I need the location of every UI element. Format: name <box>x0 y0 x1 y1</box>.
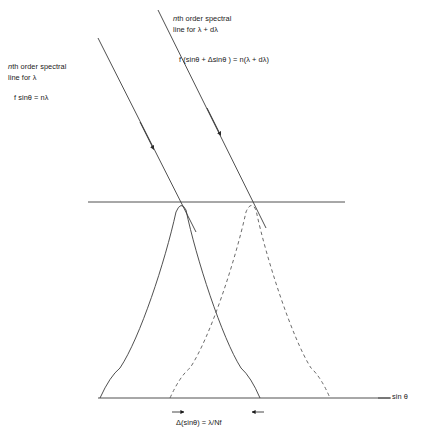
figure-root: nth order spectral line for λ f sinθ = n… <box>0 0 430 444</box>
intensity-peak-lambda <box>100 205 260 398</box>
right-beam-caption-line2: line for λ + dλ <box>173 25 231 36</box>
right-beam-caption-line1: nth order spectral <box>173 14 231 25</box>
right-beam-caption: nth order spectral line for λ + dλ <box>173 14 231 35</box>
separation-formula-label: Δ(sinθ) = λ/Nf <box>176 418 222 429</box>
right-beam-formula: f (sinθ + Δsinθ ) = n(λ + dλ) <box>179 55 269 66</box>
intensity-peak-lambda-plus-dlambda <box>170 205 330 398</box>
left-beam-caption-line1: nth order spectral <box>8 62 66 73</box>
beam-lambda-arrow-icon <box>140 122 153 148</box>
sin-theta-axis-label: sin θ <box>392 392 408 403</box>
left-beam-caption: nth order spectral line for λ <box>8 62 66 83</box>
left-beam-formula: f sinθ = nλ <box>14 93 48 104</box>
beam-lambda-plus-dlambda-arrow-icon <box>207 108 220 134</box>
left-beam-caption-line2: line for λ <box>8 73 66 84</box>
